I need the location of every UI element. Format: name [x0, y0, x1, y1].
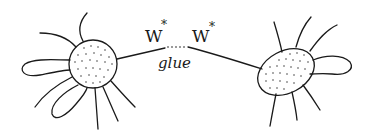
left-operator-superscript: *: [161, 18, 167, 32]
right-leg-top: [296, 17, 311, 47]
glue-label: glue: [158, 54, 191, 72]
right-blob-stipple: [265, 52, 308, 89]
right-operator-superscript: *: [209, 20, 215, 34]
glue-diagram: W * W * glue: [0, 0, 366, 135]
left-leg-bottom: [95, 88, 98, 129]
connector-right-segment: [188, 47, 262, 69]
right-leg-top-left: [274, 22, 282, 52]
left-loop-lower: [52, 85, 87, 118]
left-leg-upper-left: [40, 33, 76, 47]
right-leg-bottom-left: [270, 94, 276, 126]
right-leg-bottom: [292, 92, 297, 120]
left-blob-legs: [22, 13, 135, 129]
left-leg-right: [111, 81, 135, 107]
right-leg-bottom-right: [303, 85, 320, 110]
right-blob: [250, 17, 352, 126]
right-loop-right: [310, 56, 351, 74]
left-leg-top: [80, 13, 87, 41]
right-operator-label: W: [192, 26, 210, 46]
right-blob-legs: [270, 17, 351, 126]
left-blob-stipple: [74, 45, 112, 83]
left-loop-left: [22, 60, 70, 76]
left-leg-bottom-right: [103, 87, 118, 121]
right-leg-top-right: [310, 25, 337, 51]
left-blob: [22, 13, 135, 129]
